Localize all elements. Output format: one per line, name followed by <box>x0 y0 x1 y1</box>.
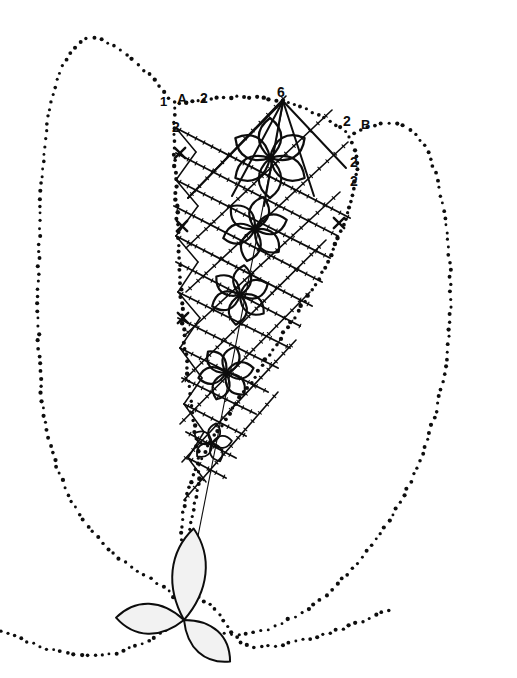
wedge-dot <box>349 200 353 204</box>
trefoil-guide-dot <box>58 649 62 653</box>
contour-dot <box>439 388 443 392</box>
diagram-canvas: 1A2622B22 <box>0 0 517 678</box>
wedge-dot <box>281 330 285 334</box>
contour-dot <box>148 72 152 76</box>
wedge-dot <box>293 316 296 319</box>
contour-dot <box>433 416 437 420</box>
wedge-dot <box>338 125 342 129</box>
contour-dot <box>37 243 41 247</box>
contour-dot <box>409 128 413 132</box>
wedge-dot <box>271 348 274 351</box>
contour-dot <box>307 607 311 611</box>
contour-dot <box>444 364 448 368</box>
contour-dot <box>382 525 386 529</box>
contour-dot <box>37 316 40 319</box>
pattern-artwork <box>0 0 517 678</box>
wedge-dot <box>254 376 257 379</box>
contour-dot <box>37 279 40 282</box>
wedge-dot <box>181 510 184 513</box>
contour-dot <box>431 164 435 168</box>
contour-dot <box>41 168 44 171</box>
contour-dot <box>412 472 415 475</box>
contour-dot <box>116 557 120 561</box>
contour-dot <box>365 549 369 553</box>
wedge-left-dot <box>182 327 186 331</box>
contour-dot <box>137 63 140 66</box>
wedge-dot <box>180 525 183 528</box>
contour-dot <box>37 272 41 276</box>
trefoil-guide-dot <box>52 648 55 651</box>
contour-dot <box>38 234 42 238</box>
contour-dot <box>42 160 46 164</box>
wedge-left-dot <box>193 502 196 505</box>
label-2-right1: 2 <box>343 114 351 128</box>
wedge-left-dot <box>190 400 193 403</box>
contour-dot <box>46 436 50 440</box>
contour-dot <box>251 630 255 634</box>
contour-dot <box>391 513 394 516</box>
wedge-dot <box>293 103 296 106</box>
contour-dot <box>336 582 340 586</box>
trefoil-guide-dot <box>152 636 156 640</box>
contour-dot <box>87 525 91 529</box>
contour-dot <box>51 451 55 455</box>
wedge-left-dot <box>192 508 196 512</box>
contour-dot <box>168 590 171 593</box>
wedge-dot <box>326 260 330 264</box>
contour-dot <box>281 622 284 625</box>
contour-dot <box>449 268 453 272</box>
trefoil-guide-dot <box>86 653 90 657</box>
contour-dot <box>361 556 364 559</box>
wedge-left-dot <box>180 301 184 305</box>
contour-dot <box>352 131 356 135</box>
trefoil-guide-dot <box>133 644 137 648</box>
trefoil-guide-dot <box>108 653 111 656</box>
contour-dot <box>446 327 450 331</box>
contour-dot <box>388 122 391 125</box>
contour-dot <box>107 547 111 551</box>
contour-dot <box>436 179 440 183</box>
contour-dot <box>274 624 277 627</box>
contour-dot <box>142 69 145 72</box>
label-2-left: 2 <box>172 120 180 134</box>
trefoil-guide-dot <box>19 636 23 640</box>
trefoil-guide-dot <box>315 635 319 639</box>
wedge-dot <box>305 107 308 110</box>
wedge-dot <box>192 473 196 477</box>
contour-dot <box>356 562 359 565</box>
zigzag-segment <box>184 378 202 404</box>
wedge-left-dot <box>188 385 191 388</box>
contour-dot <box>375 537 378 540</box>
contour-dot <box>448 321 451 324</box>
trefoil-guide-dot <box>239 641 243 645</box>
contour-dot <box>124 560 127 563</box>
contour-dot <box>96 535 100 539</box>
contour-dot <box>223 632 226 635</box>
trefoil-guide-dot <box>308 637 312 641</box>
contour-dot <box>41 175 44 178</box>
wedge-dot <box>332 248 335 251</box>
wedge-left-dot <box>191 515 194 518</box>
contour-dot <box>435 410 439 414</box>
contour-dot <box>39 377 43 381</box>
contour-dot <box>74 506 77 509</box>
rosette <box>212 265 268 324</box>
trefoil-petal <box>172 529 206 621</box>
wedge-left-dot <box>177 244 180 247</box>
wedge-dot <box>255 95 259 99</box>
trefoil-guide-dot <box>294 640 297 643</box>
contour-dot <box>448 289 452 293</box>
contour-dot <box>53 458 57 462</box>
contour-dot <box>46 114 49 117</box>
contour-dot <box>445 223 448 226</box>
wedge-dot <box>287 101 290 104</box>
contour-dot <box>44 137 47 140</box>
trefoil-guide-dot <box>147 639 151 643</box>
trefoil-guide-dot <box>128 646 131 649</box>
trefoil-guide-dot <box>260 645 264 649</box>
contour-dot <box>449 306 452 309</box>
wedge-dot <box>314 283 317 286</box>
contour-dot <box>142 573 146 577</box>
contour-dot <box>301 611 304 614</box>
rosettes <box>195 118 305 461</box>
